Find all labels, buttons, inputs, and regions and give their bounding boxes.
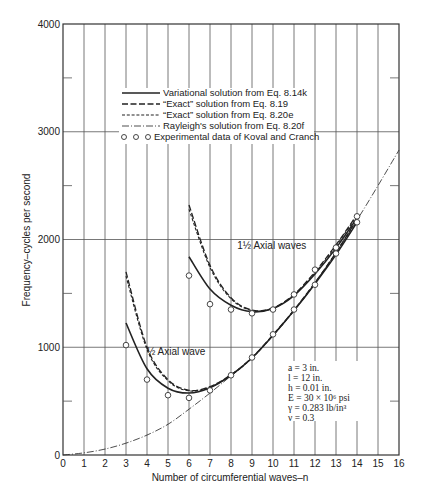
experimental-data-point [207, 388, 213, 394]
x-tick-label: 13 [330, 458, 342, 469]
annotation-1-5-axial-waves: 1½ Axial waves [237, 240, 306, 251]
experimental-data-point [186, 395, 192, 401]
experimental-data-point [228, 372, 234, 378]
legend-label: “Exact” solution from Eq. 8.20e [163, 109, 293, 120]
x-tick-label: 4 [144, 458, 150, 469]
experimental-data-point [270, 332, 276, 338]
experimental-data-point [354, 214, 360, 220]
experimental-data-point [270, 307, 276, 313]
parameter-box: a = 3 in. l = 12 in. h = 0.01 in. E = 30… [284, 361, 364, 423]
experimental-data-point [333, 245, 339, 251]
legend-circle-icon [134, 135, 139, 140]
x-tick-label: 12 [309, 458, 321, 469]
y-axis-title: Frequency–cycles per second [21, 174, 32, 307]
experimental-data-point [165, 392, 171, 398]
experimental-data-point [249, 355, 255, 361]
x-tick-label: 8 [228, 458, 234, 469]
x-tick-label: 3 [123, 458, 129, 469]
x-tick-label: 0 [60, 458, 66, 469]
y-tick-label: 2000 [38, 234, 61, 245]
x-axis-title: Number of circumferential waves–n [152, 472, 309, 483]
x-tick-label: 15 [372, 458, 384, 469]
experimental-data-point [312, 282, 318, 288]
chart: 0123456789101112131415160100020003000400… [0, 0, 422, 492]
x-tick-label: 2 [102, 458, 108, 469]
legend-circle-icon [122, 135, 127, 140]
x-tick-label: 11 [289, 458, 300, 469]
y-tick-label: 0 [54, 450, 60, 461]
param-h: h = 0.01 in. [288, 383, 332, 393]
y-tick-label: 1000 [38, 342, 61, 353]
experimental-data-point [186, 273, 192, 279]
param-a: a = 3 in. [288, 363, 319, 373]
y-tick-label: 4000 [38, 19, 61, 30]
y-tick-label: 3000 [38, 126, 61, 137]
x-tick-label: 5 [165, 458, 171, 469]
param-l: l = 12 in. [288, 373, 322, 383]
annotation-half-axial-wave: ½ Axial wave [147, 346, 206, 357]
experimental-data-point [249, 311, 255, 317]
experimental-data-point [291, 292, 297, 298]
legend-label: Variational solution from Eq. 8.14k [163, 87, 307, 98]
x-tick-label: 6 [186, 458, 192, 469]
experimental-data-point [123, 342, 129, 348]
param-nu: ν = 0.3 [288, 413, 315, 423]
x-tick-label: 1 [81, 458, 87, 469]
x-tick-label: 9 [249, 458, 255, 469]
experimental-data-point [312, 267, 318, 273]
experimental-data-point [207, 301, 213, 307]
x-tick-label: 16 [393, 458, 405, 469]
legend-label: Experimental data of Koval and Cranch [154, 131, 319, 142]
legend: Variational solution from Eq. 8.14k“Exac… [119, 87, 319, 144]
experimental-data-point [144, 377, 150, 383]
legend-label: “Exact” solution from Eq. 8.19 [163, 98, 288, 109]
experimental-data-point [354, 219, 360, 225]
param-gamma: γ = 0.283 lb/in³ [287, 403, 346, 413]
legend-circle-icon [146, 135, 151, 140]
param-E: E = 30 × 10⁶ psi [288, 393, 350, 403]
x-tick-label: 10 [267, 458, 279, 469]
legend-label: Rayleigh's solution from Eq. 8.20f [163, 120, 305, 131]
x-tick-label: 7 [207, 458, 213, 469]
experimental-data-point [333, 251, 339, 257]
x-tick-label: 14 [351, 458, 363, 469]
experimental-data-point [228, 307, 234, 313]
experimental-data-point [291, 307, 297, 313]
